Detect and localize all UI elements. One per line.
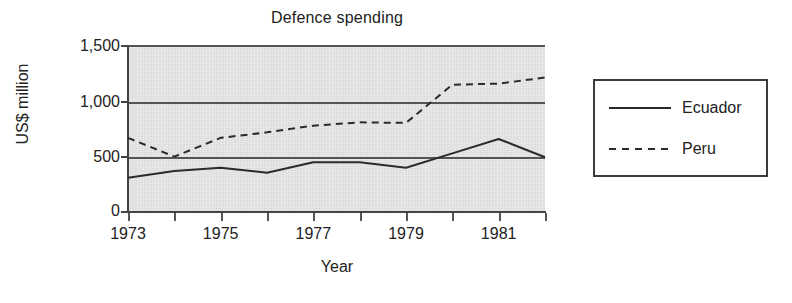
- x-ticklabel-1977: 1977: [283, 225, 343, 243]
- legend-item-peru[interactable]: Peru: [609, 138, 716, 160]
- y-axis-title: US$ million: [14, 34, 32, 174]
- chart-figure: Defence spending 1,500 1,000 500 0 US$ m…: [0, 0, 792, 303]
- legend-label-ecuador: Ecuador: [682, 99, 742, 117]
- x-tick-1974: [174, 213, 176, 221]
- x-ticklabel-1975: 1975: [191, 225, 251, 243]
- x-ticklabel-1973: 1973: [98, 225, 158, 243]
- legend-swatch-dashed-icon: [609, 143, 671, 155]
- data-series-layer: [128, 46, 545, 212]
- x-tick-1976: [267, 213, 269, 221]
- x-axis-title: Year: [128, 258, 546, 276]
- series-line-ecuador: [128, 139, 545, 178]
- x-tick-1978: [360, 213, 362, 221]
- legend-item-ecuador[interactable]: Ecuador: [609, 97, 742, 119]
- y-ticklabel-1000: 1,000: [54, 93, 120, 111]
- chart-title: Defence spending: [128, 9, 546, 27]
- x-tick-1977: [313, 213, 315, 221]
- legend-label-peru: Peru: [682, 140, 716, 158]
- y-ticklabel-500: 500: [54, 148, 120, 166]
- y-ticklabel-0: 0: [54, 202, 120, 220]
- x-tick-1981: [499, 213, 501, 221]
- x-tick-1979: [406, 213, 408, 221]
- legend: Ecuador Peru: [593, 79, 768, 177]
- x-tick-1980: [452, 213, 454, 221]
- x-ticklabel-1981: 1981: [469, 225, 529, 243]
- y-ticklabel-1500: 1,500: [54, 37, 120, 55]
- legend-swatch-solid-icon: [609, 102, 671, 114]
- x-ticklabel-1979: 1979: [376, 225, 436, 243]
- x-tick-1982: [545, 213, 547, 221]
- x-tick-1975: [221, 213, 223, 221]
- x-tick-1973: [128, 213, 130, 221]
